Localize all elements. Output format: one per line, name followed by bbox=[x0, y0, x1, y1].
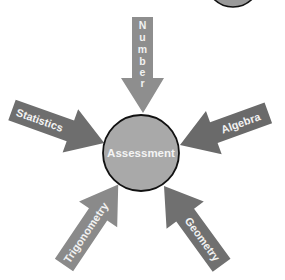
corner-circle bbox=[206, 0, 260, 7]
arrow-geometry: Geometry bbox=[145, 172, 240, 278]
arrow-number: N u m b e r bbox=[121, 17, 164, 113]
arrow-trigonometry-label: Trigonometry bbox=[61, 199, 111, 265]
arrow-number-letter: N bbox=[139, 19, 147, 31]
arrow-statistics: Statistics bbox=[4, 88, 112, 164]
assessment-diagram: N u m b e r Statistics Algebra Trigonome… bbox=[0, 0, 285, 280]
arrow-algebra: Algebra bbox=[172, 91, 276, 166]
assessment-label: Assessment bbox=[107, 147, 175, 159]
arrow-number-letter: m bbox=[138, 43, 147, 55]
arrow-number-letter: r bbox=[140, 77, 144, 89]
arrow-number-letter: u bbox=[139, 31, 145, 43]
